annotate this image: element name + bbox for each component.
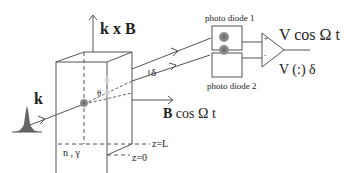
k-label: k xyxy=(34,91,43,107)
incoming-beam xyxy=(30,104,84,125)
plus-terminal: + xyxy=(264,36,268,43)
kxb-label: k x B xyxy=(100,21,136,37)
photo-diode-1-label: photo diode 1 xyxy=(205,14,255,23)
b-field-arrow xyxy=(132,96,173,104)
minus-terminal: - xyxy=(264,52,266,59)
z-l-label: z=L xyxy=(152,139,168,149)
photo-diode-1-spot xyxy=(219,32,229,42)
z-0-label: z=0 xyxy=(132,153,147,163)
beam-spot xyxy=(80,99,88,107)
theta-label: θ xyxy=(97,89,101,98)
b-cos-label: B cos Ω t xyxy=(163,107,216,121)
photo-diode-2-spot xyxy=(219,45,229,55)
b-cos-text: cos Ω t xyxy=(176,106,216,121)
beam-spot-faint xyxy=(103,76,111,84)
photo-diode-2-label: photo diode 2 xyxy=(207,82,257,91)
gaussian-pulse-icon xyxy=(12,106,42,132)
delta-label: δ xyxy=(151,67,156,78)
kxb-arrow xyxy=(89,15,97,52)
v-delta-label: V (:) δ xyxy=(279,63,316,77)
n-gamma-label: n , γ xyxy=(63,148,80,158)
v-cos-label: V cos Ω t xyxy=(279,27,340,43)
beam-spot-faint xyxy=(103,89,111,97)
outgoing-beams xyxy=(132,38,211,81)
